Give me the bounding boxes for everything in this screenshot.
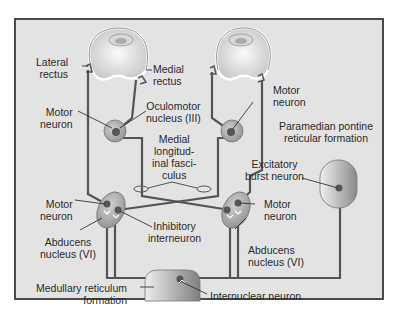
label-medial-rectus: Medial rectus — [153, 63, 184, 87]
label-line: reticular formation — [279, 132, 373, 144]
label-line: neuron — [40, 210, 73, 222]
label-line: rectus — [36, 68, 68, 80]
label-line: nucleus (III) — [146, 112, 201, 124]
label-inhibitory-interneuron: Inhibitory interneuron — [148, 220, 201, 244]
label-line: neuron — [264, 210, 297, 222]
medullary-capsule — [145, 270, 200, 301]
label-motor-neuron-right-top: Motor neuron — [273, 84, 306, 108]
label-line: interneuron — [148, 232, 201, 244]
mlf-loop-right — [197, 186, 211, 192]
label-motor-neuron-left-top: Motor neuron — [40, 106, 73, 130]
label-excitatory-burst-neuron: Excitatory burst neuron — [245, 158, 304, 182]
label-line: formation — [36, 294, 127, 306]
label-mlf: Medial longitud- inal fasci- culus — [152, 133, 196, 181]
pprf-capsule — [320, 160, 357, 208]
label-abducens-right: Abducens nucleus (VI) — [248, 244, 304, 268]
mlf-label-pointer — [148, 182, 197, 188]
left-abducens-nucleus — [91, 187, 131, 232]
label-line: Medial — [153, 63, 184, 75]
label-line: Medial — [152, 133, 196, 145]
label-line: Medullary reticulum — [36, 282, 127, 294]
label-pprf: Paramedian pontine reticular formation — [279, 120, 373, 144]
label-line: rectus — [153, 75, 184, 87]
label-line: neuron — [40, 118, 73, 130]
oculomotor-pathway-diagram — [0, 0, 394, 325]
label-line: nucleus (VI) — [248, 256, 304, 268]
label-abducens-left: Abducens nucleus (VI) — [40, 236, 96, 260]
label-internuclear-neuron: Internuclear neuron — [210, 290, 301, 302]
label-line: burst neuron — [245, 170, 304, 182]
label-line: Inhibitory — [148, 220, 201, 232]
right-eye — [210, 28, 270, 82]
label-line: Motor — [264, 198, 297, 210]
label-line: inal fasci- — [152, 157, 196, 169]
right-abducens-nucleus — [216, 187, 256, 232]
label-line: Excitatory — [245, 158, 304, 170]
label-line: Lateral — [36, 56, 68, 68]
label-line: culus — [152, 169, 196, 181]
label-line: Internuclear neuron — [210, 290, 301, 302]
left-oculomotor-nucleus — [104, 120, 126, 142]
label-oculomotor-nucleus: Oculomotor nucleus (III) — [146, 100, 201, 124]
label-line: Motor — [40, 198, 73, 210]
label-motor-neuron-left-bottom: Motor neuron — [40, 198, 73, 222]
label-line: Motor — [40, 106, 73, 118]
label-motor-neuron-right-bottom: Motor neuron — [264, 198, 297, 222]
label-line: neuron — [273, 96, 306, 108]
label-line: Oculomotor — [146, 100, 201, 112]
label-line: Paramedian pontine — [279, 120, 373, 132]
label-line: Abducens — [248, 244, 304, 256]
label-medullary-reticulum: Medullary reticulum formation — [36, 282, 127, 306]
right-oculomotor-nucleus — [221, 120, 243, 142]
label-line: nucleus (VI) — [40, 248, 96, 260]
left-eye — [86, 28, 148, 84]
label-line: Motor — [273, 84, 306, 96]
label-line: Abducens — [40, 236, 96, 248]
label-lateral-rectus: Lateral rectus — [36, 56, 68, 80]
label-line: longitud- — [152, 145, 196, 157]
